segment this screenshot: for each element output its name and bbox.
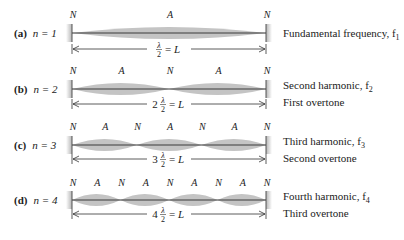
left-wall	[66, 80, 72, 98]
node-label: N	[69, 9, 78, 20]
right-wall	[266, 191, 272, 209]
standing-wave-diagrams: NANλ2= LNANAN2λ2= LNANANAN3λ2= LNANANANA…	[0, 0, 404, 240]
node-label: N	[166, 177, 175, 188]
antinode-label: A	[93, 177, 101, 188]
dim-two: 2	[161, 105, 165, 114]
right-wall	[266, 24, 272, 42]
dim-equals-L: = L	[169, 98, 184, 110]
node-label: N	[69, 65, 78, 76]
dim-multiplier: 3	[152, 153, 158, 165]
dim-multiplier: 4	[152, 208, 158, 220]
antinode-label: A	[231, 121, 239, 132]
wave-row-a: NANλ2= L	[66, 9, 272, 59]
right-wall	[266, 136, 272, 154]
antinode-label: A	[166, 121, 174, 132]
node-label: N	[263, 9, 272, 20]
dim-two: 2	[157, 50, 161, 59]
node-label: N	[263, 121, 272, 132]
left-wall	[66, 136, 72, 154]
antinode-label: A	[142, 177, 150, 188]
node-label: N	[69, 121, 78, 132]
dim-multiplier: 2	[152, 98, 158, 110]
dim-equals-L: = L	[169, 208, 184, 220]
left-wall	[66, 24, 72, 42]
node-label: N	[69, 177, 78, 188]
node-label: N	[133, 121, 142, 132]
dim-equals-L: = L	[169, 153, 184, 165]
dim-equals-L: = L	[165, 43, 180, 55]
dim-lambda: λ	[160, 151, 165, 160]
right-wall	[266, 80, 272, 98]
node-label: N	[263, 65, 272, 76]
wave-row-b: NANAN2λ2= L	[66, 65, 272, 114]
dim-lambda: λ	[160, 206, 165, 215]
left-wall	[66, 191, 72, 209]
antinode-label: A	[239, 177, 247, 188]
node-label: N	[198, 121, 207, 132]
node-label: N	[214, 177, 223, 188]
antinode-label: A	[190, 177, 198, 188]
node-label: N	[166, 65, 175, 76]
antinode-label: A	[214, 65, 222, 76]
antinode-label: A	[117, 65, 125, 76]
dim-two: 2	[161, 160, 165, 169]
dim-lambda: λ	[156, 41, 161, 50]
dim-two: 2	[161, 215, 165, 224]
wave-row-d: NANANANAN4λ2= L	[66, 177, 272, 224]
node-label: N	[263, 177, 272, 188]
node-label: N	[117, 177, 126, 188]
antinode-label: A	[101, 121, 109, 132]
antinode-label: A	[166, 9, 174, 20]
dim-lambda: λ	[160, 96, 165, 105]
wave-row-c: NANANAN3λ2= L	[66, 121, 272, 169]
